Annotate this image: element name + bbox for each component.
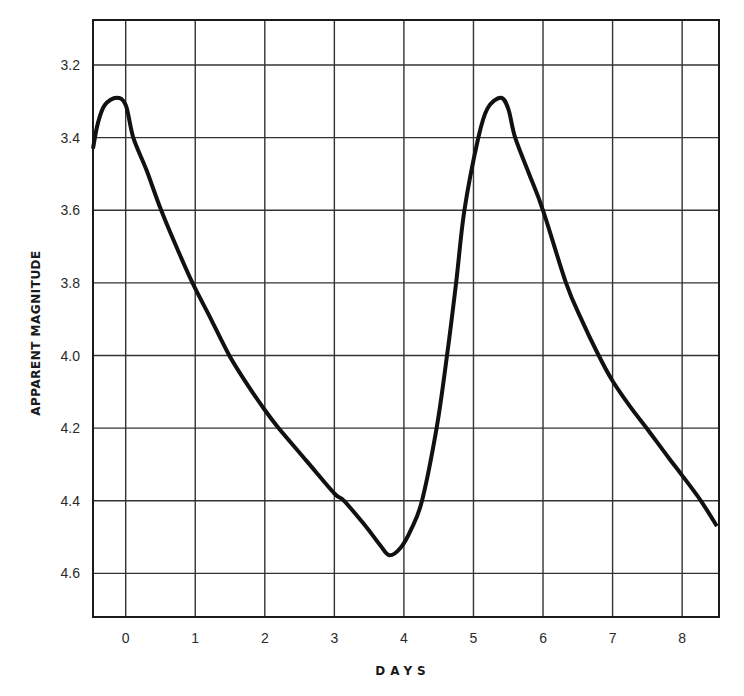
- x-tick-label: 2: [261, 630, 269, 646]
- x-tick-label: 3: [330, 630, 338, 646]
- light-curve-chart: 3.23.43.63.84.04.24.44.6 012345678 APPAR…: [0, 0, 744, 696]
- y-tick-label: 3.4: [61, 130, 81, 146]
- y-tick-label: 3.8: [61, 275, 81, 291]
- y-axis-title: APPARENT MAGNITUDE: [29, 250, 43, 416]
- x-tick-label: 5: [470, 630, 478, 646]
- y-tick-label: 3.6: [61, 202, 81, 218]
- y-tick-label: 4.0: [61, 348, 81, 364]
- background: [0, 0, 744, 696]
- y-tick-label: 4.2: [61, 420, 81, 436]
- x-tick-label: 4: [400, 630, 408, 646]
- x-tick-label: 0: [122, 630, 130, 646]
- x-tick-label: 8: [678, 630, 686, 646]
- y-tick-label: 3.2: [61, 57, 81, 73]
- y-tick-label: 4.6: [61, 565, 81, 581]
- x-tick-label: 7: [609, 630, 617, 646]
- x-tick-label: 1: [191, 630, 199, 646]
- x-axis-title: DAYS: [375, 664, 430, 678]
- x-tick-label: 6: [539, 630, 547, 646]
- y-tick-label: 4.4: [61, 493, 81, 509]
